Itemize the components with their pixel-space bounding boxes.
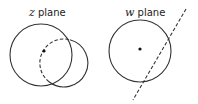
w-plane-panel: w plane xyxy=(109,6,186,100)
w-plane-text: plane xyxy=(134,7,165,18)
z-plane-panel: z plane xyxy=(10,6,88,87)
z-small-circle-solid-arc xyxy=(49,40,88,87)
z-point-dot xyxy=(42,49,45,52)
w-center-dot xyxy=(138,47,141,50)
w-dashed-line xyxy=(133,9,186,100)
z-plane-text: plane xyxy=(35,7,66,18)
w-plane-label: w plane xyxy=(125,6,165,19)
z-plane-label: z plane xyxy=(28,6,66,19)
w-circle xyxy=(109,20,171,82)
z-small-circle-dashed-arc xyxy=(40,39,70,82)
conformal-map-diagram: z plane w plane xyxy=(0,0,198,104)
